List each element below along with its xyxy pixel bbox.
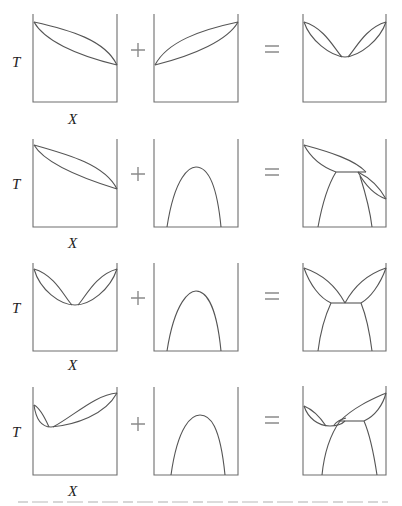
y-axis-label: T [12,424,22,440]
y-axis-label: T [12,300,22,316]
y-axis-label: T [12,176,22,192]
y-axis-label: T [12,54,22,70]
x-axis-label: X [67,111,78,127]
row-3-left-panel [33,263,117,351]
row-4-result-panel [303,386,386,475]
plus-icon [131,417,145,431]
row-4: T X [12,386,386,499]
row-2-result-panel [303,139,386,227]
row-4-middle-panel [154,387,238,475]
x-axis-label: X [67,483,78,499]
plus-icon [131,291,145,305]
x-axis-label: X [67,357,78,373]
plus-icon [131,43,145,57]
figure-caption-faint [18,499,388,506]
equals-icon [265,417,279,423]
equals-icon [265,293,279,299]
row-1: T X [12,14,386,127]
row-2-middle-panel [154,139,238,227]
row-2-left-panel [33,139,117,227]
phase-diagram-figure: T X T X [0,0,402,506]
row-1-middle-panel [154,14,238,102]
plus-icon [131,167,145,181]
row-4-left-panel [33,387,117,475]
row-3: T X [12,263,386,373]
row-1-result-panel [303,14,386,102]
equals-icon [265,169,279,175]
row-1-left-panel [33,14,117,102]
row-2: T X [12,139,386,251]
equals-icon [265,46,279,52]
x-axis-label: X [67,235,78,251]
row-3-middle-panel [154,263,238,351]
row-3-result-panel [303,263,386,351]
